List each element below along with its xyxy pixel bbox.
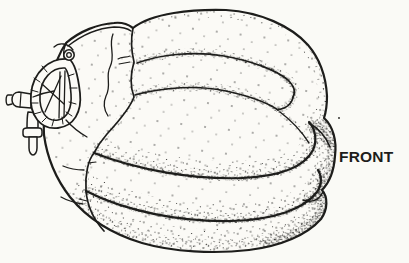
grommet	[64, 50, 74, 60]
figure-canvas: FRONT	[0, 0, 409, 263]
front-label: FRONT	[339, 148, 394, 165]
inflatable-life-preserver-illustration: FRONT	[0, 0, 409, 263]
speck-dot	[338, 117, 340, 119]
